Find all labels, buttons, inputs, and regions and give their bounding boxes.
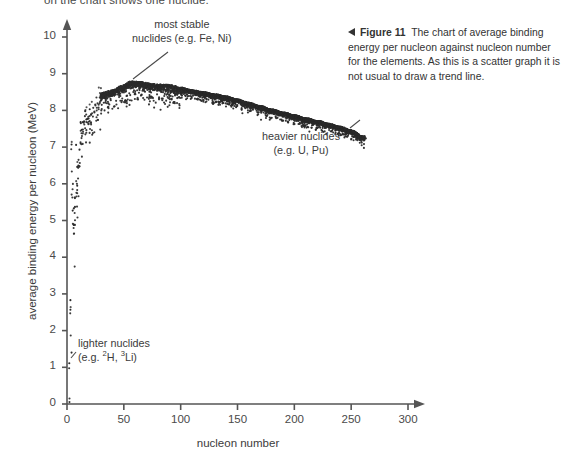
y-tick-label-3: 3: [34, 286, 56, 298]
annotation-lighter-line1: lighter nuclides: [78, 337, 150, 351]
x-axis-title: nucleon number: [0, 437, 476, 449]
annotation-most-stable: most stable nuclides (e.g. Fe, Ni): [132, 18, 232, 45]
figure-page: on the chart shows one nuclide. Figure 1…: [0, 0, 564, 463]
annotation-heavier-line2: (e.g. U, Pu): [262, 144, 340, 158]
y-tick-label-5: 5: [34, 213, 56, 225]
chart-canvas: [0, 0, 564, 463]
binding-energy-scatter-chart: average binding energy per nucleon (MeV)…: [0, 0, 564, 463]
x-tick-label-200: 200: [274, 413, 314, 425]
annotation-heavier-nuclides: heavier nuclides (e.g. U, Pu): [262, 130, 340, 157]
x-tick-label-300: 300: [388, 413, 428, 425]
y-tick-label-6: 6: [34, 176, 56, 188]
x-tick-label-150: 150: [218, 413, 258, 425]
annotation-most-stable-line1: most stable: [132, 18, 232, 32]
y-tick-label-0: 0: [34, 396, 56, 408]
annotation-heavier-line1: heavier nuclides: [262, 130, 340, 144]
y-tick-label-2: 2: [34, 323, 56, 335]
x-tick-label-0: 0: [47, 413, 87, 425]
annotation-most-stable-line2: nuclides (e.g. Fe, Ni): [132, 32, 232, 46]
y-tick-label-1: 1: [34, 359, 56, 371]
x-tick-label-100: 100: [161, 413, 201, 425]
annotation-lighter-nuclides: lighter nuclides (e.g. 2H, 3Li): [78, 337, 150, 364]
x-tick-label-50: 50: [104, 413, 144, 425]
x-tick-label-250: 250: [331, 413, 371, 425]
y-tick-label-9: 9: [34, 66, 56, 78]
y-tick-label-10: 10: [34, 29, 56, 41]
annotation-lighter-line2: (e.g. 2H, 3Li): [78, 351, 150, 365]
y-tick-label-8: 8: [34, 102, 56, 114]
y-tick-label-7: 7: [34, 139, 56, 151]
y-tick-label-4: 4: [34, 249, 56, 261]
